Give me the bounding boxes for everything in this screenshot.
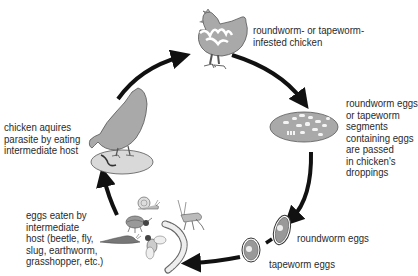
- grasshopper-icon: [178, 200, 204, 230]
- roundworm-egg-illustration: [270, 213, 293, 246]
- label-roundworm-eggs: roundworm eggs: [297, 233, 369, 245]
- label-infested-chicken: roundworm- or tapeworm- infested chicken: [253, 25, 364, 48]
- label-chicken-eating: chicken aquires parasite by eating inter…: [4, 122, 80, 157]
- tapeworm-egg-illustration: [242, 238, 260, 262]
- arrow-infested-to-droppings: [232, 55, 302, 100]
- chicken-eating-illustration: [89, 88, 153, 174]
- arrow-eating-to-infested: [118, 57, 180, 99]
- arrow-eggs-to-hosts: [192, 257, 240, 263]
- label-intermediate-hosts: eggs eaten by intermediate host (beetle,…: [26, 210, 103, 268]
- egg-connector: [266, 239, 272, 243]
- infested-chicken-illustration: [198, 9, 247, 69]
- fly-icon: [145, 235, 166, 259]
- earthworm-icon: [165, 224, 184, 270]
- arrow-hosts-to-eating: [104, 178, 117, 215]
- label-tapeworm-eggs: tapeworm eggs: [269, 259, 335, 271]
- label-droppings: roundworm eggs or tapeworm segments cont…: [346, 98, 418, 179]
- droppings-illustration: [270, 112, 338, 142]
- arrow-droppings-to-eggs: [292, 152, 311, 218]
- beetle-icon: [126, 216, 152, 233]
- snail-icon: [138, 197, 160, 209]
- slug-icon: [100, 234, 141, 244]
